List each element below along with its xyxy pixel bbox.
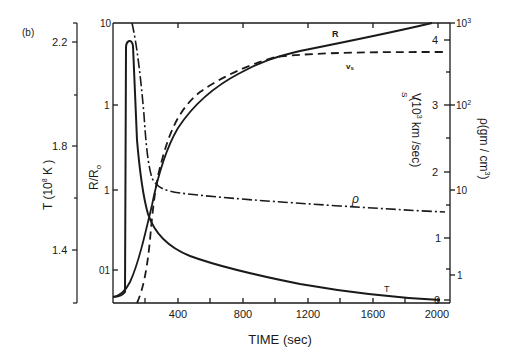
curve-t bbox=[113, 41, 440, 300]
x-tick-2000: 2000 bbox=[425, 308, 449, 320]
x-tick-800: 800 bbox=[234, 308, 252, 320]
x-tick-1200: 1200 bbox=[296, 308, 320, 320]
plot-frame bbox=[113, 23, 455, 303]
x-axis-label: TIME (sec) bbox=[248, 332, 312, 347]
curve-vs bbox=[137, 52, 445, 303]
v-tick-4: 4 bbox=[432, 34, 438, 46]
t-tick-2.2: 2.2 bbox=[52, 36, 67, 48]
t-tick-1.4: 1.4 bbox=[52, 244, 67, 256]
rho-tick-10: 10 bbox=[456, 185, 468, 196]
rho-axis-label: ρ(gm / cm3) bbox=[477, 118, 491, 179]
vs-axis-label: VS(103 km /sec) bbox=[400, 92, 423, 167]
curve-label-rho: ρ bbox=[351, 192, 359, 206]
curve-label-r: R bbox=[332, 29, 339, 39]
curve-label-vs: vs bbox=[346, 62, 354, 71]
t-tick-1.8: 1.8 bbox=[52, 140, 67, 152]
panel-label: (b) bbox=[22, 27, 34, 38]
v-tick-3: 3 bbox=[432, 99, 438, 111]
v-tick-2: 2 bbox=[432, 166, 438, 178]
rho-tick-1: 1 bbox=[457, 270, 463, 281]
chart-svg: (b) 2.2 1.8 1.4 T (108 K ) R/Ro 10 1 1 0… bbox=[0, 0, 509, 360]
r-tick-1: 1 bbox=[104, 100, 110, 111]
curve-label-t: T bbox=[384, 284, 390, 294]
rho-tick-1000: 103 bbox=[456, 17, 471, 29]
r-axis-label: R/Ro bbox=[87, 164, 103, 190]
curve-r bbox=[113, 23, 432, 297]
t-axis bbox=[72, 23, 77, 303]
r-tick-0.01: 01 bbox=[99, 265, 111, 276]
rho-tick-100: 102 bbox=[456, 99, 471, 111]
v-tick-1: 1 bbox=[435, 232, 441, 244]
t-axis-label: T (108 K ) bbox=[41, 160, 55, 210]
r-tick-10: 10 bbox=[100, 18, 112, 29]
x-tick-1600: 1600 bbox=[361, 308, 385, 320]
r-tick-0.1: 1 bbox=[104, 185, 110, 196]
x-tick-400: 400 bbox=[169, 308, 187, 320]
